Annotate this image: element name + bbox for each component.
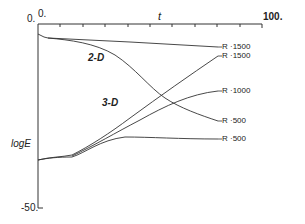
- series-label-3d-r1000: R ·1000: [222, 86, 250, 96]
- series-label-3d-r1500: R ·1500: [222, 51, 250, 61]
- chart-plot-area: [0, 0, 305, 224]
- line-3d-r500: [38, 137, 218, 160]
- x-ticks: [60, 24, 262, 28]
- line-2d-r500: [48, 38, 218, 121]
- series-label-2d-r500: R ·500: [222, 116, 246, 126]
- annotation-2d: 2-D: [88, 53, 104, 63]
- line-2d-r1500: [38, 34, 218, 47]
- x-tick-label-end: 100.: [263, 12, 282, 22]
- x-axis-label: t: [158, 11, 161, 21]
- y-tick-label-top: 0.: [27, 14, 35, 24]
- y-axis-label: logE: [11, 139, 31, 149]
- series-lines: [38, 34, 218, 160]
- annotation-3d: 3-D: [102, 98, 118, 108]
- line-3d-r1500: [38, 56, 218, 160]
- series-label-3d-r500: R ·500: [222, 134, 246, 144]
- x-tick-label-start: 0.: [38, 9, 46, 19]
- y-tick-label-bottom: -50.: [21, 203, 38, 213]
